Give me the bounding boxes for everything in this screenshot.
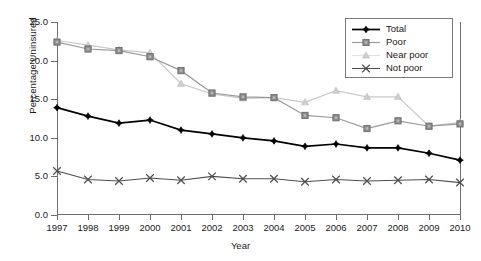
square-marker (271, 95, 277, 101)
legend-item-poor[interactable]: Poor (350, 35, 448, 48)
square-marker (333, 115, 339, 121)
diamond-marker (271, 137, 278, 144)
diamond-legend-icon (350, 22, 382, 35)
legend-item-near-poor[interactable]: Near poor (350, 48, 448, 61)
diamond-marker (147, 117, 154, 124)
diamond-marker (209, 131, 216, 138)
diamond-marker (54, 104, 61, 111)
square-marker (116, 47, 122, 53)
diamond-marker (395, 144, 402, 151)
square-marker (240, 94, 246, 100)
diamond-marker (302, 143, 309, 150)
square-marker (426, 123, 432, 129)
x-marker (53, 167, 61, 175)
triangle-legend-icon (350, 48, 382, 61)
square-marker (457, 121, 463, 127)
legend: TotalPoorNear poorNot poor (345, 18, 453, 78)
series-total (54, 104, 464, 163)
diamond-marker (85, 113, 92, 120)
square-marker (54, 39, 60, 45)
diamond-marker (240, 134, 247, 141)
chart-figure: Percentage Uninsured Year 0.05.010.015.0… (0, 0, 481, 261)
series-line (57, 108, 460, 161)
legend-label: Total (382, 23, 406, 34)
diamond-marker (426, 150, 433, 157)
diamond-marker (364, 144, 371, 151)
square-marker (364, 125, 370, 131)
square-legend-icon (350, 35, 382, 48)
legend-label: Not poor (382, 62, 422, 73)
square-marker (395, 118, 401, 124)
square-marker (147, 54, 153, 60)
square-marker (363, 39, 369, 45)
series-line (57, 171, 460, 183)
legend-label: Poor (382, 36, 406, 47)
square-marker (209, 90, 215, 96)
legend-item-not-poor[interactable]: Not poor (350, 61, 448, 74)
series-not-poor (53, 167, 464, 186)
diamond-marker (178, 127, 185, 134)
diamond-marker (363, 26, 370, 33)
x-legend-icon (350, 61, 382, 74)
legend-label: Near poor (382, 49, 428, 60)
square-marker (302, 112, 308, 118)
square-marker (85, 46, 91, 52)
diamond-marker (333, 141, 340, 148)
diamond-marker (457, 157, 464, 164)
triangle-marker (333, 87, 340, 93)
square-marker (178, 68, 184, 74)
diamond-marker (116, 120, 123, 127)
legend-item-total[interactable]: Total (350, 22, 448, 35)
